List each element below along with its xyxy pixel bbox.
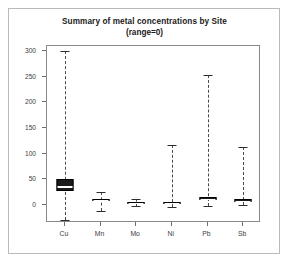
boxplot-lower-cap-Pb bbox=[203, 206, 212, 207]
boxplot-median-Cu bbox=[57, 186, 72, 188]
boxplot-whisker-Ni bbox=[172, 145, 173, 207]
boxplot-lower-cap-Mo bbox=[132, 206, 141, 207]
y-tick-mark bbox=[42, 50, 46, 51]
x-tick-mark bbox=[171, 222, 172, 226]
x-tick-mark bbox=[207, 222, 208, 226]
boxplot-median-Sb bbox=[236, 201, 251, 202]
x-tick-label-Sb: Sb bbox=[238, 230, 246, 237]
boxplot-whisker-Mn bbox=[101, 192, 102, 210]
boxplot-median-Mo bbox=[129, 203, 144, 204]
boxplot-upper-cap-Cu bbox=[60, 51, 69, 52]
y-tick-label: 200 bbox=[25, 98, 36, 105]
y-tick-mark bbox=[42, 76, 46, 77]
boxplot-median-Mn bbox=[93, 200, 108, 201]
x-tick-label-Cu: Cu bbox=[59, 230, 68, 237]
boxplot-lower-cap-Mn bbox=[96, 211, 105, 212]
y-axis: 050100150200250300 bbox=[0, 45, 46, 223]
boxplot-lower-cap-Ni bbox=[167, 207, 176, 208]
y-tick-mark bbox=[42, 178, 46, 179]
y-tick-label: 100 bbox=[25, 149, 36, 156]
y-tick-label: 300 bbox=[25, 47, 36, 54]
boxplot-lower-cap-Cu bbox=[60, 220, 69, 221]
boxplot-upper-cap-Mo bbox=[132, 199, 141, 200]
boxplot-median-Pb bbox=[200, 199, 215, 200]
x-tick-mark bbox=[135, 222, 136, 226]
boxplot-median-Ni bbox=[164, 203, 179, 204]
x-tick-label-Mo: Mo bbox=[130, 230, 139, 237]
x-tick-label-Mn: Mn bbox=[95, 230, 104, 237]
boxplot-figure: Summary of metal concentrations by Site … bbox=[0, 0, 289, 263]
y-tick-mark bbox=[42, 127, 46, 128]
x-tick-mark bbox=[242, 222, 243, 226]
plot-area bbox=[46, 45, 260, 222]
x-tick-label-Pb: Pb bbox=[202, 230, 210, 237]
x-axis: CuMnMoNiPbSb bbox=[46, 222, 261, 244]
x-tick-mark bbox=[100, 222, 101, 226]
boxplot-upper-cap-Ni bbox=[167, 145, 176, 146]
boxplot-upper-cap-Pb bbox=[203, 75, 212, 76]
boxplot-lower-cap-Sb bbox=[239, 205, 248, 206]
y-tick-label: 50 bbox=[29, 175, 36, 182]
boxplot-upper-cap-Sb bbox=[239, 147, 248, 148]
y-tick-mark bbox=[42, 204, 46, 205]
y-tick-label: 150 bbox=[25, 124, 36, 131]
y-tick-label: 250 bbox=[25, 72, 36, 79]
boxplot-whisker-Sb bbox=[243, 147, 244, 205]
y-tick-mark bbox=[42, 101, 46, 102]
y-tick-mark bbox=[42, 153, 46, 154]
boxplot-whisker-Cu bbox=[65, 51, 66, 220]
boxplot-whisker-Pb bbox=[208, 75, 209, 206]
x-tick-label-Ni: Ni bbox=[168, 230, 174, 237]
boxplot-upper-cap-Mn bbox=[96, 192, 105, 193]
x-tick-mark bbox=[64, 222, 65, 226]
y-tick-label: 0 bbox=[32, 201, 36, 208]
